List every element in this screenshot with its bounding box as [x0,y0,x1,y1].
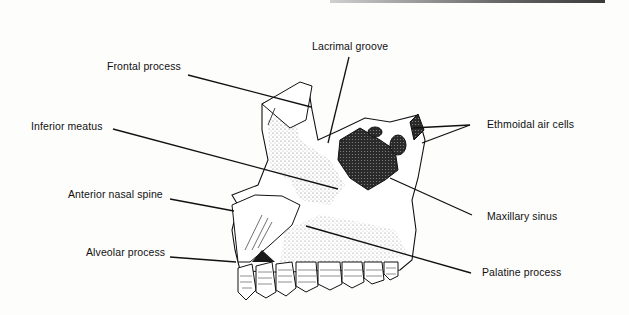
leader-anterior-nasal-spine [170,199,234,211]
label-ethmoidal-air-cells: Ethmoidal air cells [487,118,574,130]
leader-alveolar-process [170,257,236,262]
label-anterior-nasal-spine: Anterior nasal spine [68,188,163,200]
label-alveolar-process: Alveolar process [86,246,165,258]
label-inferior-meatus: Inferior meatus [31,120,103,132]
teeth [238,262,398,300]
label-frontal-process: Frontal process [107,60,181,72]
label-palatine-process: Palatine process [482,266,561,278]
label-maxillary-sinus: Maxillary sinus [487,210,557,222]
label-lacrimal-groove: Lacrimal groove [312,40,388,52]
